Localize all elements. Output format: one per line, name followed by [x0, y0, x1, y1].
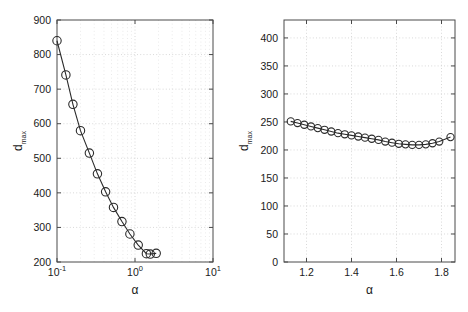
- y-tick-label: 700: [33, 83, 51, 95]
- x-tick-label: 101: [205, 264, 221, 278]
- y-axis-title: dmax: [11, 131, 27, 151]
- y-tick-label: 300: [260, 88, 278, 100]
- y-tick-label: 200: [260, 144, 278, 156]
- y-tick-label: 200: [33, 256, 51, 268]
- gridlines-group: [57, 20, 213, 262]
- data-point-marker: [447, 133, 454, 140]
- x-tick-label: 1.4: [344, 266, 359, 278]
- y-tick-label: 800: [33, 48, 51, 60]
- y-tick-label: 900: [33, 14, 51, 26]
- y-tick-label: 100: [260, 200, 278, 212]
- y-tick-label: 400: [33, 187, 51, 199]
- x-tick-label: 1.8: [434, 266, 449, 278]
- ticks-group: 1.21.41.61.8050100150200250300350400: [260, 20, 455, 278]
- y-axis-title: dmax: [237, 131, 253, 151]
- figure-container: 10-1100101200300400500600700800900αdmax …: [0, 0, 468, 312]
- chart-panel-right: 1.21.41.61.8050100150200250300350400αdma…: [234, 0, 468, 312]
- y-tick-label: 150: [260, 172, 278, 184]
- y-tick-label: 250: [260, 116, 278, 128]
- x-axis-title: α: [366, 283, 373, 297]
- y-axis-title-text: dmax: [237, 131, 253, 151]
- chart-panel-left: 10-1100101200300400500600700800900αdmax: [0, 0, 234, 312]
- y-tick-label: 400: [260, 32, 278, 44]
- left-plot-svg: 10-1100101200300400500600700800900αdmax: [0, 0, 234, 312]
- data-series-line: [57, 41, 156, 254]
- x-tick-label: 1.6: [389, 266, 404, 278]
- y-tick-label: 0: [272, 256, 278, 268]
- y-tick-label: 500: [33, 152, 51, 164]
- y-tick-label: 350: [260, 60, 278, 72]
- x-axis-title: α: [132, 283, 139, 297]
- y-tick-label: 50: [266, 228, 278, 240]
- data-markers-group: [53, 37, 161, 259]
- data-markers-group: [287, 118, 454, 149]
- x-tick-label: 100: [127, 264, 143, 278]
- y-tick-label: 300: [33, 221, 51, 233]
- y-axis-title-text: dmax: [11, 131, 27, 151]
- y-tick-label: 600: [33, 117, 51, 129]
- right-plot-svg: 1.21.41.61.8050100150200250300350400αdma…: [234, 0, 468, 312]
- x-tick-label: 1.2: [299, 266, 314, 278]
